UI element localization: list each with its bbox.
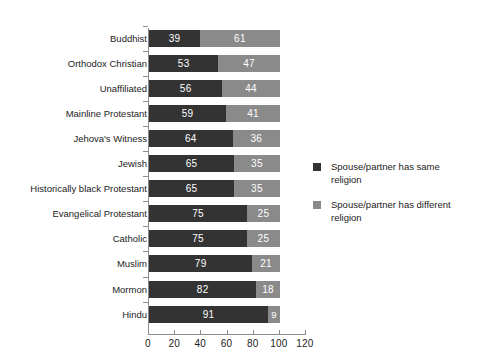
- stacked-bar: 5644: [149, 80, 280, 97]
- y-axis-tick: [143, 151, 148, 152]
- bar-value-label: 82: [197, 284, 209, 295]
- y-axis-tick: [143, 277, 148, 278]
- bar-segment-same-religion: 56: [149, 80, 222, 97]
- bar-segment-same-religion: 65: [149, 155, 234, 172]
- x-axis-tick: [279, 330, 280, 335]
- bar-value-label: 53: [178, 58, 190, 69]
- category-label: Hindu: [0, 306, 147, 323]
- bar-value-label: 79: [195, 258, 207, 269]
- bar-row: Hindu919: [0, 306, 477, 323]
- x-axis-tick: [174, 330, 175, 335]
- legend-swatch-different-religion: [313, 201, 321, 209]
- bar-value-label: 47: [243, 58, 255, 69]
- bar-value-label: 61: [234, 33, 246, 44]
- bar-value-label: 65: [186, 183, 198, 194]
- category-label: Orthodox Christian: [0, 55, 147, 72]
- bar-value-label: 35: [251, 158, 263, 169]
- bar-value-label: 21: [260, 258, 272, 269]
- y-axis-tick: [143, 176, 148, 177]
- y-axis-tick: [143, 302, 148, 303]
- bar-value-label: 25: [258, 233, 270, 244]
- bar-segment-same-religion: 91: [149, 306, 268, 323]
- bar-value-label: 39: [169, 33, 181, 44]
- bar-row: Jehova's Witness6436: [0, 130, 477, 147]
- stacked-bar: 7525: [149, 205, 280, 222]
- y-axis-tick: [143, 26, 148, 27]
- bar-segment-same-religion: 59: [149, 105, 226, 122]
- bar-segment-different-religion: 25: [247, 205, 280, 222]
- legend-item: Spouse/partner has different religion: [313, 199, 473, 224]
- bar-segment-different-religion: 9: [268, 306, 280, 323]
- y-axis-tick: [143, 76, 148, 77]
- bar-value-label: 25: [258, 208, 270, 219]
- bar-value-label: 75: [192, 233, 204, 244]
- y-axis-tick: [143, 126, 148, 127]
- category-label: Historically black Protestant: [0, 180, 147, 197]
- bar-value-label: 65: [186, 158, 198, 169]
- bar-row: Buddhist3961: [0, 30, 477, 47]
- x-axis-tick-label: 120: [285, 338, 325, 349]
- bar-segment-different-religion: 21: [252, 255, 279, 272]
- bar-row: Mainline Protestant5941: [0, 105, 477, 122]
- bar-segment-different-religion: 18: [256, 281, 280, 298]
- y-axis-tick: [143, 251, 148, 252]
- bar-value-label: 9: [271, 309, 277, 320]
- bar-segment-same-religion: 82: [149, 281, 256, 298]
- stacked-bar: 6436: [149, 130, 280, 147]
- category-label: Muslim: [0, 255, 147, 272]
- legend-label: Spouse/partner has different religion: [331, 199, 473, 224]
- bar-value-label: 36: [250, 133, 262, 144]
- x-axis-tick: [305, 330, 306, 335]
- y-axis-tick: [143, 226, 148, 227]
- bar-row: Mormon8218: [0, 281, 477, 298]
- chart-legend: Spouse/partner has same religionSpouse/p…: [313, 161, 473, 237]
- category-label: Evangelical Protestant: [0, 205, 147, 222]
- stacked-bar: 5347: [149, 55, 280, 72]
- bar-segment-same-religion: 39: [149, 30, 200, 47]
- x-axis-tick: [253, 330, 254, 335]
- y-axis-tick: [143, 101, 148, 102]
- category-label: Jewish: [0, 155, 147, 172]
- bar-row: Muslim7921: [0, 255, 477, 272]
- category-label: Jehova's Witness: [0, 130, 147, 147]
- bar-value-label: 18: [262, 284, 274, 295]
- y-axis-tick: [143, 201, 148, 202]
- stacked-bar: 5941: [149, 105, 280, 122]
- bar-segment-different-religion: 44: [222, 80, 280, 97]
- bar-segment-same-religion: 53: [149, 55, 218, 72]
- bar-segment-different-religion: 47: [218, 55, 279, 72]
- bar-value-label: 75: [192, 208, 204, 219]
- bar-segment-same-religion: 75: [149, 230, 247, 247]
- x-axis-tick: [200, 330, 201, 335]
- bar-segment-different-religion: 35: [234, 155, 280, 172]
- bar-value-label: 91: [203, 309, 215, 320]
- bar-segment-different-religion: 25: [247, 230, 280, 247]
- stacked-bar: 3961: [149, 30, 280, 47]
- stacked-bar: 6535: [149, 180, 280, 197]
- bar-value-label: 35: [251, 183, 263, 194]
- bar-segment-same-religion: 65: [149, 180, 234, 197]
- bar-value-label: 41: [247, 108, 259, 119]
- category-label: Unaffiliated: [0, 80, 147, 97]
- category-label: Mormon: [0, 281, 147, 298]
- x-axis-tick: [148, 330, 149, 335]
- bar-value-label: 64: [185, 133, 197, 144]
- bar-row: Unaffiliated5644: [0, 80, 477, 97]
- bar-segment-same-religion: 79: [149, 255, 252, 272]
- stacked-bar: 7525: [149, 230, 280, 247]
- legend-item: Spouse/partner has same religion: [313, 161, 473, 186]
- category-label: Catholic: [0, 230, 147, 247]
- bar-value-label: 56: [180, 83, 192, 94]
- bar-segment-different-religion: 41: [226, 105, 280, 122]
- x-axis-tick: [227, 330, 228, 335]
- bar-row: Orthodox Christian5347: [0, 55, 477, 72]
- category-label: Buddhist: [0, 30, 147, 47]
- bar-value-label: 44: [245, 83, 257, 94]
- bar-segment-different-religion: 35: [234, 180, 280, 197]
- y-axis-tick: [143, 51, 148, 52]
- stacked-bar: 7921: [149, 255, 280, 272]
- stacked-bar: 8218: [149, 281, 280, 298]
- legend-label: Spouse/partner has same religion: [331, 161, 473, 186]
- bar-segment-same-religion: 75: [149, 205, 247, 222]
- bar-value-label: 59: [182, 108, 194, 119]
